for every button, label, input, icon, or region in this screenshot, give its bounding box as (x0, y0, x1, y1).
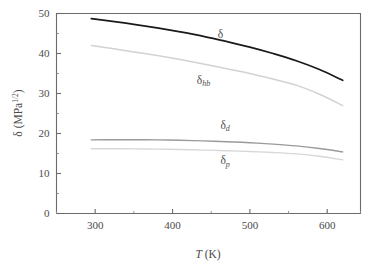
axes-frame (57, 14, 361, 214)
y-tick-label-0: 0 (44, 207, 50, 219)
y-tick-label-20: 20 (39, 127, 51, 139)
y-axis-tick-labels: 01020304050 (39, 7, 51, 219)
data-series-group (91, 19, 342, 160)
x-tick-label-500: 500 (242, 219, 259, 231)
curve-annotations: δδhbδdδp (197, 28, 231, 169)
chart-figure: 01020304050 300400500600 δδhbδdδp T (K) … (0, 0, 390, 266)
series-line-δhb (91, 46, 342, 106)
label-delta-p: δp (220, 154, 229, 169)
x-tick-label-300: 300 (87, 219, 104, 231)
y-tick-label-10: 10 (39, 167, 51, 179)
x-axis-tick-labels: 300400500600 (87, 219, 336, 231)
plot-frame (57, 14, 361, 214)
x-axis-title-text: T (K) (195, 248, 220, 261)
label-delta-d: δd (220, 119, 230, 134)
series-line-δp (91, 149, 342, 160)
x-axis-title: T (K) (195, 248, 220, 261)
y-axis-title-text: δ (MPa1/2) (11, 89, 25, 136)
x-tick-label-400: 400 (164, 219, 181, 231)
y-tick-label-40: 40 (39, 47, 51, 59)
y-tick-label-50: 50 (39, 7, 51, 19)
label-delta-hb: δhb (197, 74, 210, 89)
y-tick-label-30: 30 (39, 87, 51, 99)
delta-vs-temperature-chart: 01020304050 300400500600 δδhbδdδp T (K) … (0, 0, 390, 266)
y-axis-title: δ (MPa1/2) (11, 89, 25, 136)
x-tick-label-600: 600 (319, 219, 336, 231)
label-delta: δ (218, 28, 223, 40)
